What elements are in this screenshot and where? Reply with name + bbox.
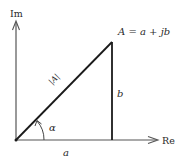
real-axis-label: Re: [162, 135, 175, 146]
imaginary-part-label: b: [117, 88, 123, 99]
imaginary-axis-label: Im: [10, 8, 23, 19]
phasor-diagram: Im Re A = a + jb b a α |A|: [0, 0, 182, 160]
real-part-label: a: [63, 147, 69, 158]
point-label: A = a + jb: [117, 26, 170, 37]
angle-label: α: [49, 122, 56, 133]
origin-point: [15, 139, 18, 142]
magnitude-label: |A|: [47, 72, 61, 86]
real-axis: Re: [16, 135, 175, 146]
imaginary-axis: Im: [10, 8, 23, 140]
magnitude-vector: [16, 42, 112, 140]
